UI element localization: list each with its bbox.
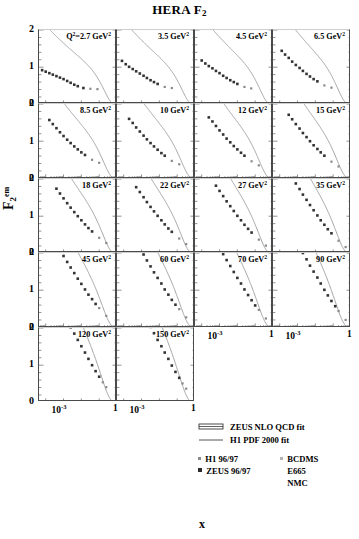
data-point [128,118,131,121]
data-point [91,298,94,301]
panel-plot [39,179,116,252]
data-point [105,242,107,244]
data-point [305,198,308,201]
data-point [66,202,69,205]
data-point [89,88,91,90]
data-point [337,239,339,241]
data-point [225,200,228,203]
data-point [80,219,83,222]
data-point [337,310,339,312]
data-point [82,87,85,90]
data-point [218,72,221,75]
data-point [121,60,124,63]
data-point [124,63,127,66]
panel-plot [117,179,194,252]
data-point [142,253,145,256]
data-point [156,83,159,86]
data-point [167,227,170,230]
data-point [240,152,243,155]
data-point [131,68,134,71]
panel-q2-60: 60 GeV2 [116,252,194,326]
data-point [323,84,325,86]
data-point [146,259,149,262]
x-tick-marks [40,398,116,401]
x-axis-label: x [199,517,205,532]
data-point [302,193,305,196]
data-point [229,205,232,208]
y-tick-marks [39,30,116,103]
data-point [163,288,166,291]
data-point [327,228,330,231]
data-point [59,76,62,79]
data-point [309,204,312,207]
data-point [181,382,183,384]
legend-marker-swatch [198,468,202,472]
data-point [91,230,94,233]
data-point [171,160,173,162]
data-point [323,289,326,292]
data-point [146,201,149,204]
panel-q2-4p5: 4.5 GeV2 [194,29,272,103]
data-point [69,266,72,269]
data-point [94,303,97,306]
data-point [128,66,131,69]
fit-curve [48,179,116,252]
data-point [258,165,260,167]
data-point [208,65,211,68]
data-point [153,81,156,84]
panel-label: 3.5 GeV2 [158,31,189,41]
panel-label: 150 GeV2 [156,329,189,339]
data-point [73,146,76,149]
panel-label: 45 GeV2 [82,254,111,264]
data-point [91,363,94,366]
fit-curve [195,30,272,103]
data-point [139,72,142,75]
data-point [251,161,253,163]
panel-plot [273,253,350,326]
data-point [55,75,58,78]
data-point [62,255,65,258]
data-point [222,134,225,137]
panel-q2-6p5: 6.5 GeV2 [272,29,350,103]
data-point [171,364,174,367]
data-point [240,219,243,222]
data-point [316,148,319,151]
data-point [232,209,235,212]
y-tick-label: 0 [20,395,34,406]
y-tick-label: 2 [20,23,34,34]
data-point [250,87,252,89]
panel-plot [195,179,272,252]
y-tick-marks [273,253,350,326]
data-point [250,299,253,302]
legend-band-swatch [198,422,224,432]
data-point [236,148,239,151]
y-tick-label: 1 [20,283,34,294]
data-point [174,370,177,373]
data-point [167,294,170,297]
data-point [298,67,301,70]
data-point [287,114,290,117]
data-point [62,135,65,138]
fit-curve [140,253,194,326]
y-axis-label-sup: em [2,187,11,197]
data-point [236,83,239,86]
fit-curve [118,104,194,177]
data-point [200,59,203,62]
panel-q2-12: 12 GeV2 [194,103,272,177]
panel-q2-8p5: 8.5 GeV2 [38,103,116,177]
legend-marker-swatch [280,469,283,472]
data-point [225,138,228,141]
y-tick-label: 2 [20,97,34,108]
data-point [91,159,93,161]
x-tick-label: 10-3 [130,403,145,415]
data-point [69,142,72,145]
y-tick-marks [195,104,272,177]
data-point [171,87,173,89]
y-tick-marks [195,179,272,252]
data-point [243,288,246,291]
data-point [305,258,308,261]
y-tick-marks [273,30,350,103]
legend: ZEUS NLO QCD fitH1 PDF 2000 fit H1 96/97… [198,420,356,515]
x-tick-marks [118,398,194,401]
data-point [305,136,308,139]
